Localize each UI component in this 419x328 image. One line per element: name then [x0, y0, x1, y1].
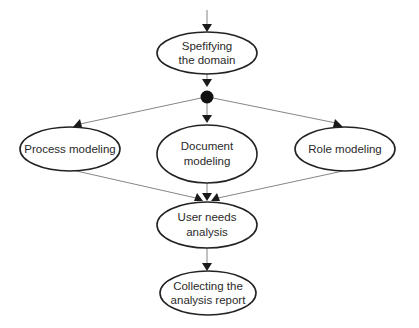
- node-process-modeling[interactable]: Process modeling: [20, 127, 120, 171]
- flow-diagram: Spefifying the domain Process modeling D…: [0, 0, 419, 328]
- arrowhead-icon: [211, 193, 220, 201]
- edge-fork-to-role: [213, 98, 336, 123]
- arrowhead-icon: [202, 24, 212, 32]
- arrowhead-icon: [202, 79, 212, 87]
- node-ellipse: [157, 202, 257, 248]
- node-document-modeling[interactable]: Document modeling: [157, 125, 257, 183]
- node-ellipse: [160, 271, 256, 315]
- node-label-line-2: the domain: [179, 54, 236, 66]
- node-role-modeling[interactable]: Role modeling: [295, 127, 395, 171]
- fork-node: [201, 91, 214, 104]
- node-label-line-1: Document: [181, 140, 234, 152]
- node-label-line-2: analysis report: [171, 294, 247, 306]
- node-label-line-2: modeling: [184, 155, 231, 167]
- node-specifying-domain[interactable]: Spefifying the domain: [157, 32, 257, 74]
- node-label: Role modeling: [308, 143, 382, 155]
- node-label: Process modeling: [24, 143, 115, 155]
- node-label-line-1: Collecting the: [173, 280, 243, 292]
- arrowhead-icon: [333, 119, 343, 127]
- node-label-line-1: Spefifying: [182, 40, 233, 52]
- node-label-line-2: analysis: [186, 226, 228, 238]
- node-user-needs-analysis[interactable]: User needs analysis: [157, 202, 257, 248]
- node-ellipse: [157, 125, 257, 183]
- node-label-line-1: User needs: [178, 211, 237, 223]
- arrowhead-icon: [194, 193, 203, 201]
- arrowhead-icon: [73, 119, 82, 127]
- node-collecting-analysis-report[interactable]: Collecting the analysis report: [160, 271, 256, 315]
- arrowhead-icon: [202, 115, 212, 123]
- arrowhead-icon: [202, 193, 212, 201]
- node-ellipse: [157, 32, 257, 74]
- arrowhead-icon: [202, 263, 212, 271]
- edge-fork-to-process: [80, 98, 201, 124]
